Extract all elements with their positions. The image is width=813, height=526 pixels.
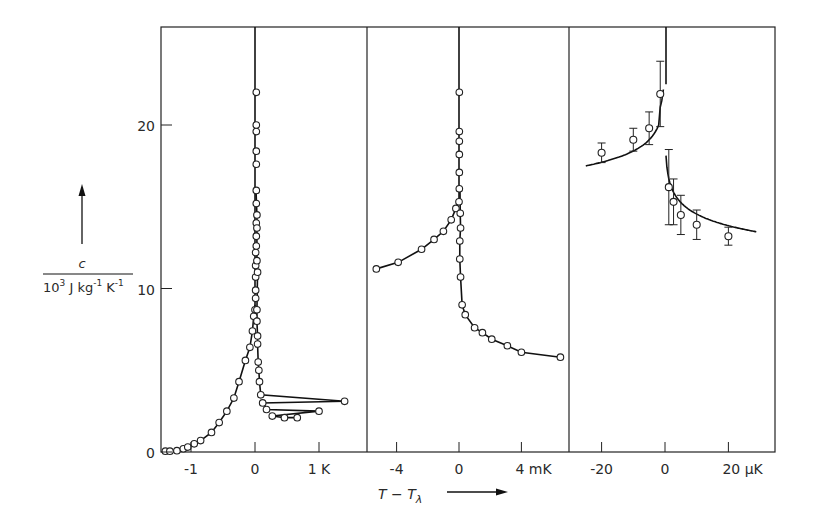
data-point bbox=[252, 287, 259, 294]
data-point bbox=[462, 311, 469, 318]
x-tick-label: -1 bbox=[184, 461, 198, 477]
data-point bbox=[456, 151, 463, 158]
data-point bbox=[269, 413, 276, 420]
data-point bbox=[431, 236, 438, 243]
data-point bbox=[395, 259, 402, 266]
data-point bbox=[263, 406, 270, 413]
data-point bbox=[456, 199, 463, 206]
data-point bbox=[231, 395, 238, 402]
data-point bbox=[242, 357, 249, 364]
data-point bbox=[254, 257, 261, 264]
up-arrow-icon bbox=[79, 184, 86, 196]
data-point bbox=[693, 221, 700, 228]
data-point bbox=[479, 329, 486, 336]
data-point bbox=[256, 378, 263, 385]
y-tick-label: 20 bbox=[137, 118, 155, 134]
data-point bbox=[259, 400, 266, 407]
right-arrow-icon bbox=[496, 489, 508, 496]
data-point bbox=[418, 246, 425, 253]
data-point bbox=[216, 419, 223, 426]
data-point bbox=[254, 318, 261, 325]
data-point bbox=[657, 90, 664, 97]
data-point bbox=[253, 200, 260, 207]
data-point bbox=[456, 256, 463, 263]
data-point bbox=[459, 302, 466, 309]
data-point bbox=[167, 448, 174, 455]
data-point bbox=[471, 324, 478, 331]
data-point bbox=[456, 185, 463, 192]
y-label-numerator: c bbox=[78, 256, 85, 271]
data-point bbox=[256, 367, 263, 374]
data-point bbox=[294, 414, 301, 421]
data-point bbox=[254, 225, 261, 232]
y-axis-label: c 103 J kg-1 K-1 bbox=[43, 184, 133, 295]
data-point bbox=[646, 125, 653, 132]
data-point bbox=[457, 210, 464, 217]
data-point bbox=[254, 269, 261, 276]
data-point bbox=[253, 148, 260, 155]
data-point bbox=[254, 306, 261, 313]
data-point bbox=[236, 378, 243, 385]
data-point bbox=[488, 336, 495, 343]
data-point bbox=[253, 122, 260, 129]
data-points bbox=[162, 61, 732, 454]
data-point bbox=[253, 128, 260, 135]
x-tick-label: 0 bbox=[251, 461, 260, 477]
data-point bbox=[457, 274, 464, 281]
data-point bbox=[457, 225, 464, 232]
data-point bbox=[456, 89, 463, 96]
fit-curve-below bbox=[376, 199, 459, 269]
data-point bbox=[448, 217, 455, 224]
data-point bbox=[224, 408, 231, 415]
fit-curve-above bbox=[460, 190, 561, 357]
data-point bbox=[247, 344, 254, 351]
data-point bbox=[456, 169, 463, 176]
x-tick-label: -20 bbox=[590, 461, 613, 477]
data-point bbox=[174, 447, 181, 454]
y-tick-label: 10 bbox=[137, 282, 155, 298]
data-point bbox=[197, 437, 204, 444]
x-tick-label: 20 μK bbox=[722, 461, 763, 477]
data-point bbox=[254, 341, 261, 348]
x-label-text: T − Tλ bbox=[378, 486, 422, 506]
y-label-denominator: 103 J kg-1 K-1 bbox=[43, 278, 124, 295]
data-point bbox=[316, 408, 323, 415]
data-point bbox=[185, 444, 192, 451]
x-tick-label: 0 bbox=[455, 461, 464, 477]
x-tick-label: 1 K bbox=[308, 461, 331, 477]
data-point bbox=[254, 212, 261, 219]
x-axis-label: T − Tλ bbox=[378, 486, 508, 506]
data-point bbox=[677, 211, 684, 218]
data-point bbox=[253, 89, 260, 96]
data-point bbox=[191, 441, 198, 448]
data-point bbox=[456, 138, 463, 145]
data-point bbox=[254, 333, 261, 340]
x-tick-label: -4 bbox=[390, 461, 404, 477]
data-point bbox=[252, 295, 259, 302]
data-point bbox=[281, 414, 288, 421]
data-point bbox=[725, 233, 732, 240]
data-point bbox=[504, 342, 511, 349]
data-point bbox=[257, 391, 264, 398]
data-point bbox=[253, 243, 260, 250]
data-point bbox=[665, 184, 672, 191]
data-point bbox=[630, 136, 637, 143]
data-point bbox=[456, 128, 463, 135]
data-point bbox=[440, 228, 447, 235]
data-point bbox=[252, 249, 259, 256]
data-point bbox=[456, 238, 463, 245]
fit-curve-above bbox=[666, 156, 756, 232]
fit-curve-above bbox=[256, 190, 345, 417]
data-point bbox=[208, 429, 215, 436]
data-point bbox=[253, 233, 260, 240]
y-tick-label: 0 bbox=[146, 445, 155, 461]
data-point bbox=[518, 349, 525, 356]
axis-ticks: 01020-101 K-404 mK-20020 μK bbox=[137, 118, 763, 477]
x-tick-label: 4 mK bbox=[515, 461, 552, 477]
data-point bbox=[557, 354, 564, 361]
lambda-transition-chart: 01020-101 K-404 mK-20020 μK c 103 J kg-1… bbox=[0, 0, 813, 526]
data-point bbox=[598, 149, 605, 156]
x-tick-label: 0 bbox=[661, 461, 670, 477]
data-point bbox=[253, 187, 260, 194]
data-point bbox=[373, 266, 380, 273]
